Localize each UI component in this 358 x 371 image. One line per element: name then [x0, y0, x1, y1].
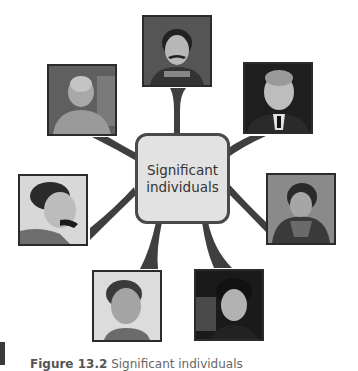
figure-caption: Figure 13.2 Significant individuals	[30, 357, 243, 371]
portrait-left-image	[20, 176, 86, 244]
figure-number: Figure 13.2	[30, 357, 107, 371]
portrait-top-image	[144, 17, 210, 85]
portrait-top-right	[243, 62, 313, 134]
portrait-bottom-right-image	[196, 271, 262, 339]
central-node-line2: individuals	[146, 179, 219, 196]
portrait-bottom-right	[194, 269, 264, 341]
central-node: Significant individuals	[135, 133, 230, 224]
portrait-bottom-left-image	[94, 272, 160, 340]
portrait-top	[142, 15, 212, 87]
portrait-top-left	[47, 64, 117, 136]
portrait-right-image	[268, 175, 334, 243]
portrait-bottom-left	[92, 270, 162, 342]
portrait-top-right-image	[245, 64, 311, 132]
portrait-right	[266, 173, 336, 245]
portrait-left	[18, 174, 88, 246]
page-edge-marker	[0, 342, 5, 365]
figure-caption-text: Significant individuals	[111, 357, 243, 371]
central-node-line1: Significant	[146, 162, 219, 179]
portrait-top-left-image	[49, 66, 115, 134]
